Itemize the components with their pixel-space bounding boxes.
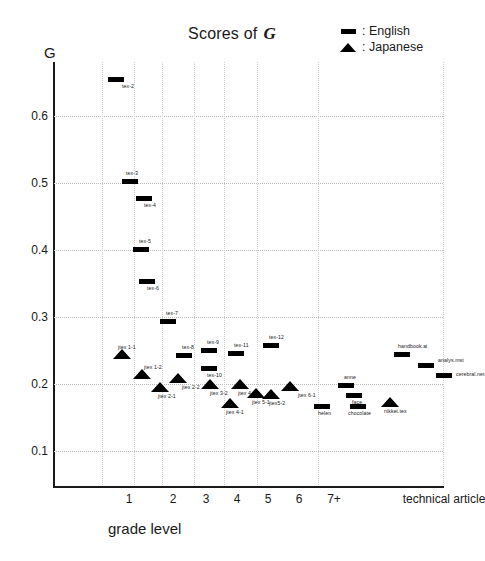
x-axis-tick-label: 1 xyxy=(126,492,133,506)
japanese-triangle-marker xyxy=(133,369,151,379)
english-bar-marker xyxy=(201,348,217,353)
legend-label-japanese: : Japanese xyxy=(358,40,423,54)
data-point-label: jtex 6-1 xyxy=(298,392,316,398)
japanese-triangle-marker xyxy=(201,379,219,389)
gridline-horizontal xyxy=(54,451,443,452)
gridline-vertical xyxy=(257,62,258,485)
gridline-vertical xyxy=(102,62,103,485)
x-axis-title: grade level xyxy=(108,520,181,537)
gridline-vertical xyxy=(194,62,195,485)
data-point-label: tex-8 xyxy=(182,344,194,350)
japanese-triangle-marker xyxy=(113,349,131,359)
data-point-label: tex-7 xyxy=(166,310,178,316)
english-bar-marker xyxy=(338,383,354,388)
y-axis-tick-label: 0.2 xyxy=(18,377,48,391)
gridline-vertical xyxy=(443,62,444,485)
x-axis-tick-label: technical article xyxy=(403,492,485,506)
english-bar-marker xyxy=(350,404,366,409)
japanese-triangle-marker xyxy=(381,397,399,407)
data-point-label: jtex 2-1 xyxy=(158,393,176,399)
gridline-vertical xyxy=(162,62,163,485)
x-axis-line xyxy=(53,486,444,488)
y-axis-tick-label: 0.3 xyxy=(18,310,48,324)
english-bar-marker xyxy=(436,373,452,378)
data-point-label: jtex 1-1 xyxy=(118,344,136,350)
legend-label-english: : English xyxy=(358,24,410,38)
data-point-label: tex-5 xyxy=(139,238,151,244)
data-point-label: handbook.ai xyxy=(398,343,427,349)
data-point-label: tex-11 xyxy=(234,342,249,348)
gridline-horizontal xyxy=(54,317,443,318)
japanese-triangle-marker xyxy=(151,382,169,392)
y-axis-tick-label: 0.6 xyxy=(18,109,48,123)
x-axis-tick-label: 6 xyxy=(296,492,303,506)
english-bar-marker xyxy=(346,393,362,398)
y-axis-tick-label: 0.4 xyxy=(18,243,48,257)
y-axis-title: G xyxy=(44,44,56,61)
english-bar-marker xyxy=(418,363,434,368)
data-point-label: anne xyxy=(344,374,356,380)
chart-title-text: Scores of xyxy=(188,25,257,42)
gridline-vertical xyxy=(134,62,135,485)
data-point-label: nikkei.tex xyxy=(384,408,407,414)
x-axis-tick-label: 2 xyxy=(170,492,177,506)
english-bar-icon xyxy=(338,29,358,34)
english-bar-marker xyxy=(201,366,217,371)
data-point-label: tex-12 xyxy=(269,334,284,340)
y-axis-tick-label: 0.1 xyxy=(18,444,48,458)
english-bar-marker xyxy=(263,343,279,348)
english-bar-marker xyxy=(176,353,192,358)
english-bar-marker xyxy=(122,179,138,184)
data-point-label: tex-2 xyxy=(122,83,134,89)
data-point-label: jtex 5-1 xyxy=(252,399,270,405)
y-axis-tick-label: 0.5 xyxy=(18,176,48,190)
data-point-label: cerebral.net xyxy=(456,371,485,377)
x-axis-tick-label: 3 xyxy=(203,492,210,506)
gridline-horizontal xyxy=(54,250,443,251)
japanese-triangle-marker xyxy=(262,389,280,399)
japanese-triangle-marker xyxy=(281,381,299,391)
chart-legend: : English : Japanese xyxy=(338,23,464,55)
x-axis-tick-label: 7+ xyxy=(327,492,341,506)
japanese-triangle-marker xyxy=(169,373,187,383)
legend-item-japanese: : Japanese xyxy=(338,39,464,55)
data-point-label: helen xyxy=(318,410,331,416)
english-bar-marker xyxy=(108,77,124,82)
data-point-label: chocolate xyxy=(348,410,371,416)
data-point-label: tex-6 xyxy=(147,285,159,291)
data-point-label: analys.mst xyxy=(438,357,464,363)
legend-item-english: : English xyxy=(338,23,464,39)
gridline-vertical xyxy=(318,62,319,485)
plot-area: tex-2tex-3tex-4tex-5tex-6tex-7tex-8tex-9… xyxy=(54,62,443,485)
data-point-label: jtex5-2 xyxy=(269,400,285,406)
japanese-triangle-marker xyxy=(221,398,239,408)
english-bar-marker xyxy=(139,279,155,284)
data-point-label: jtex 2-2 xyxy=(182,384,200,390)
data-point-label: tex-3 xyxy=(126,170,138,176)
data-point-label: tex-9 xyxy=(207,339,219,345)
english-bar-marker xyxy=(160,319,176,324)
english-bar-marker xyxy=(394,352,410,357)
x-axis-tick-label: 4 xyxy=(234,492,241,506)
english-bar-marker xyxy=(133,247,149,252)
data-point-label: tex-10 xyxy=(207,372,222,378)
data-point-label: jtex 1-2 xyxy=(144,364,162,370)
data-point-label: jtex 3-2 xyxy=(210,390,228,396)
data-point-label: tex-4 xyxy=(144,202,156,208)
english-bar-marker xyxy=(228,351,244,356)
gridline-horizontal xyxy=(54,183,443,184)
gridline-vertical xyxy=(224,62,225,485)
chart-title-symbol: G xyxy=(257,24,275,43)
english-bar-marker xyxy=(136,196,152,201)
japanese-triangle-icon xyxy=(338,43,358,52)
data-point-label: jtex 4-1 xyxy=(226,409,244,415)
english-bar-marker xyxy=(314,404,330,409)
gridline-horizontal xyxy=(54,116,443,117)
x-axis-tick-label: 5 xyxy=(265,492,272,506)
